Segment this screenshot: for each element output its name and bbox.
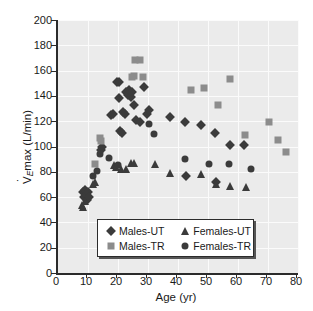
- gridline-vertical: [298, 20, 299, 273]
- square-glyph: [107, 242, 114, 249]
- diamond-glyph: [106, 226, 116, 236]
- data-point-males-ut: [225, 140, 235, 150]
- data-point-females-tr: [106, 154, 113, 161]
- data-point-females-tr: [94, 167, 101, 174]
- gridline-vertical: [88, 20, 89, 273]
- x-axis-label: Age (yr): [56, 291, 296, 303]
- y-axis-tick-label: 20: [18, 242, 52, 253]
- circle-glyph: [181, 242, 188, 249]
- data-point-females-ut: [166, 169, 174, 177]
- data-point-females-tr: [151, 130, 158, 137]
- y-axis-tick-mark: [51, 121, 56, 122]
- data-point-females-ut: [197, 170, 205, 178]
- data-point-males-tr: [136, 57, 143, 64]
- data-point-males-tr: [283, 148, 290, 155]
- y-axis-tick-mark: [51, 45, 56, 46]
- x-axis-tick-mark: [176, 273, 177, 278]
- legend-row: Males-UTFemales-UT: [100, 223, 251, 238]
- data-point-females-ut: [91, 178, 99, 186]
- y-axis-tick-mark: [51, 222, 56, 223]
- chart-figure: 0204060801001201401601802000102030405060…: [0, 0, 313, 311]
- data-point-females-ut: [81, 197, 89, 205]
- y-axis-tick-mark: [51, 248, 56, 249]
- x-axis-tick-mark: [266, 273, 267, 278]
- data-point-males-ut: [239, 140, 249, 150]
- data-point-females-tr: [247, 166, 254, 173]
- legend-item-males-ut[interactable]: Males-UT: [100, 225, 174, 237]
- legend-label: Males-UT: [119, 225, 165, 237]
- ylabel-v: V: [21, 176, 33, 184]
- y-axis-label: VEmax (L/min): [21, 72, 35, 222]
- data-point-males-tr: [214, 101, 221, 108]
- data-point-males-tr: [187, 86, 194, 93]
- data-point-males-tr: [265, 119, 272, 126]
- x-axis-tick-mark: [206, 273, 207, 278]
- data-point-males-tr: [241, 132, 248, 139]
- data-point-females-tr: [145, 120, 152, 127]
- data-point-males-tr: [131, 72, 138, 79]
- data-point-females-tr: [226, 161, 233, 168]
- x-axis-tick-mark: [236, 273, 237, 278]
- y-axis-tick-mark: [51, 71, 56, 72]
- y-axis-tick-mark: [51, 20, 56, 21]
- data-point-females-tr: [205, 161, 212, 168]
- x-axis-tick-mark: [116, 273, 117, 278]
- triangle-glyph: [181, 227, 189, 235]
- triangle-marker-icon: [180, 226, 189, 235]
- v-dot-symbol: V: [21, 176, 33, 184]
- square-marker-icon: [106, 241, 115, 250]
- ylabel-rest: max (L/min): [21, 110, 33, 171]
- legend-label: Males-TR: [119, 240, 165, 252]
- data-point-females-ut: [151, 160, 159, 168]
- x-axis-tick-mark: [146, 273, 147, 278]
- chart-legend: Males-UTFemales-UTMales-TRFemales-TR: [97, 219, 254, 257]
- legend-item-females-tr[interactable]: Females-TR: [174, 240, 251, 252]
- y-axis-tick-mark: [51, 273, 56, 274]
- circle-marker-icon: [180, 241, 189, 250]
- data-point-males-ut: [180, 118, 190, 128]
- data-point-males-tr: [140, 73, 147, 80]
- y-axis-tick-mark: [51, 96, 56, 97]
- data-point-males-ut: [210, 128, 220, 138]
- y-axis-tick-mark: [51, 172, 56, 173]
- legend-label: Females-UT: [193, 225, 251, 237]
- gridline-vertical: [268, 20, 269, 273]
- data-point-females-tr: [115, 162, 122, 169]
- y-axis-tick-mark: [51, 147, 56, 148]
- data-point-females-ut: [212, 180, 220, 188]
- data-point-females-ut: [242, 183, 250, 191]
- x-axis-tick-label: 0: [44, 276, 68, 287]
- legend-label: Females-TR: [193, 240, 251, 252]
- data-point-males-ut: [135, 118, 145, 128]
- legend-item-females-ut[interactable]: Females-UT: [174, 225, 251, 237]
- y-axis-tick-label: 180: [18, 40, 52, 51]
- data-point-males-tr: [200, 85, 207, 92]
- diamond-marker-icon: [106, 226, 115, 235]
- legend-item-males-tr[interactable]: Males-TR: [100, 240, 174, 252]
- data-point-males-tr: [98, 138, 105, 145]
- x-axis-tick-mark: [86, 273, 87, 278]
- data-point-females-tr: [181, 156, 188, 163]
- y-axis-tick-label: 200: [18, 15, 52, 26]
- data-point-females-tr: [97, 151, 104, 158]
- data-point-males-tr: [275, 137, 282, 144]
- data-point-males-tr: [227, 76, 234, 83]
- y-axis-tick-mark: [51, 197, 56, 198]
- data-point-females-ut: [226, 182, 234, 190]
- data-point-females-ut: [130, 159, 138, 167]
- legend-row: Males-TRFemales-TR: [100, 238, 251, 253]
- x-axis-tick-mark: [296, 273, 297, 278]
